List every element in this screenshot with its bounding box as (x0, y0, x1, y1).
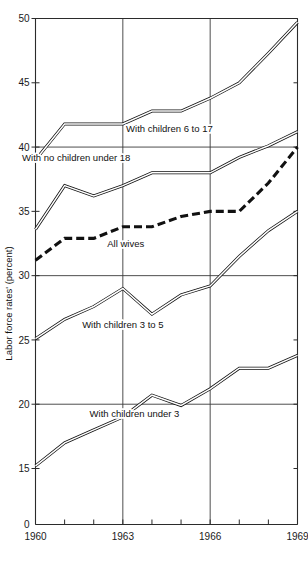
series-label-with-children-under-3: With children under 3 (90, 408, 180, 419)
x-tick-label-1963: 1963 (112, 531, 135, 542)
labor-force-line-chart: 015202530354045501960196319661969Labor f… (0, 0, 308, 568)
series-label-all-wives: All wives (107, 238, 144, 249)
series-line-with-children-6-to-17 (36, 22, 298, 160)
y-tick-label-25: 25 (18, 335, 30, 346)
y-tick-label-40: 40 (18, 142, 30, 153)
series-label-with-no-children-under-18: With no children under 18 (22, 152, 130, 163)
series-line-core-with-children-3-to-5 (36, 211, 298, 338)
y-tick-label-15: 15 (18, 463, 30, 474)
y-axis-title: Labor force rates' (percent) (3, 246, 14, 360)
x-tick-label-1960: 1960 (24, 531, 47, 542)
series-label-with-children-6-to-17: With children 6 to 17 (126, 123, 213, 134)
series-line-all-wives (36, 147, 298, 260)
y-tick-label-35: 35 (18, 206, 30, 217)
series-line-core-with-children-6-to-17 (36, 22, 298, 160)
series-line-with-children-3-to-5 (36, 211, 298, 338)
y-tick-label-30: 30 (18, 270, 30, 281)
chart-container: 015202530354045501960196319661969Labor f… (0, 0, 308, 568)
x-tick-label-1966: 1966 (199, 531, 222, 542)
y-tick-label-45: 45 (18, 77, 30, 88)
series-label-with-children-3-to-5: With children 3 to 5 (82, 319, 163, 330)
y-tick-label-0: 0 (24, 519, 30, 530)
series-line-with-no-children-under-18 (36, 132, 298, 230)
series-line-core-with-no-children-under-18 (36, 132, 298, 230)
x-tick-label-1969: 1969 (286, 531, 308, 542)
y-tick-label-20: 20 (18, 399, 30, 410)
y-tick-label-50: 50 (18, 13, 30, 24)
